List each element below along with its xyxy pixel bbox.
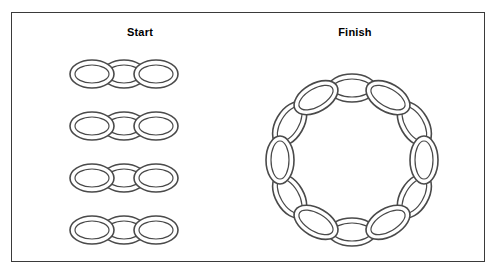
chain-puzzle-figure: Start Finish	[0, 0, 498, 276]
figure-frame	[11, 12, 485, 262]
start-panel-title: Start	[85, 26, 195, 38]
finish-panel-title: Finish	[300, 26, 410, 38]
